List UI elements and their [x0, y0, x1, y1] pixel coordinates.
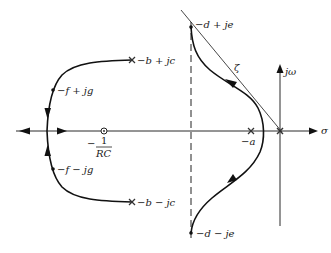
root-locus-diagram: σ jω ζ −b + jc −b − jc −a: [0, 0, 331, 253]
real-axis-arrowhead: [309, 128, 318, 135]
zero-label-denominator: RC: [95, 148, 112, 159]
locus-arrow-down: [45, 108, 52, 119]
locus-arrow-lower-right: [227, 174, 237, 183]
point-f-upper-label: −f + jg: [57, 85, 93, 96]
zero-label-numerator: 1: [101, 135, 107, 146]
zero-label-sign: −: [87, 138, 95, 149]
jomega-label: jω: [283, 66, 296, 77]
pole-upper-label: −b + jc: [137, 55, 176, 66]
pole-a-label: −a: [241, 136, 255, 147]
zero-marker: [101, 128, 107, 134]
point-marker-f-upper: [51, 88, 55, 92]
point-f-lower-label: −f − jg: [57, 164, 93, 175]
point-d-lower-label: −d − je: [196, 228, 235, 239]
real-axis-left-arrow: [19, 128, 30, 135]
locus-arrow-up: [45, 145, 52, 156]
imaginary-axis-arrowhead: [277, 64, 284, 73]
point-marker-f-lower: [51, 167, 55, 171]
point-marker-d-upper: [189, 25, 193, 29]
sigma-label: σ: [321, 125, 329, 136]
pole-lower-label: −b − jc: [137, 197, 176, 208]
real-axis-right-arrow: [57, 128, 67, 135]
point-d-upper-label: −d + je: [195, 19, 234, 30]
point-marker-d-lower: [189, 231, 193, 235]
zeta-label: ζ: [234, 62, 240, 73]
